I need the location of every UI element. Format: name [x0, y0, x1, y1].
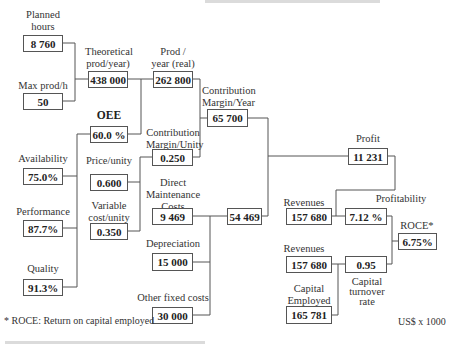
profitability-box: 7.12 % — [345, 208, 387, 225]
label-line: Planned — [22, 9, 64, 21]
variable-cost-label: Variable cost/unity — [84, 200, 134, 224]
connector — [128, 79, 141, 134]
cm-unity-label: Contribution Margin/Unity — [146, 127, 200, 151]
planned-hours-box: 8 760 — [23, 35, 63, 52]
capital-employed-box: 165 781 — [286, 306, 332, 324]
cm-year-box: 65 700 — [207, 109, 248, 127]
roce-label: ROCE* — [396, 220, 438, 232]
capital-employed-label: Capital Employed — [284, 283, 334, 307]
label-line: Direct — [144, 177, 202, 189]
revenues-1-box: 157 680 — [286, 208, 332, 225]
quality-label: Quality — [20, 263, 66, 275]
cm-unity-box: 0.250 — [152, 149, 193, 166]
quality-box: 91.3% — [23, 279, 63, 296]
other-fixed-costs-label: Other fixed costs — [136, 292, 210, 304]
prod-year-real-box: 262 800 — [153, 71, 193, 88]
max-prod-box: 50 — [23, 93, 63, 110]
performance-label: Performance — [12, 206, 74, 218]
label-line: Prod / — [150, 46, 196, 58]
label-line: prod/year) — [85, 58, 131, 70]
label-line: year (real) — [150, 58, 196, 70]
prod-year-real-label: Prod / year (real) — [150, 46, 196, 70]
availability-box: 75.0% — [23, 168, 63, 185]
label-line: Theoretical — [85, 46, 131, 58]
units-note: US$ x 1000 — [398, 316, 446, 327]
profitability-label: Profitability — [372, 193, 430, 205]
revenues-2-label: Revenues — [282, 243, 326, 255]
label-line: rate — [344, 297, 390, 307]
profit-label: Profit — [348, 133, 388, 145]
oee-box: 60.0 % — [90, 126, 128, 143]
theoretical-prod-label: Theoretical prod/year) — [85, 46, 131, 70]
connector — [336, 156, 395, 216]
label-line: hours — [22, 21, 64, 33]
planned-hours-label: Planned hours — [22, 9, 64, 33]
revenues-2-box: 157 680 — [286, 256, 332, 273]
capital-turnover-label: Capital turnover rate — [344, 277, 390, 307]
price-unity-box: 0.600 — [90, 174, 128, 191]
profit-box: 11 231 — [348, 148, 388, 165]
availability-label: Availability — [15, 153, 71, 165]
oee-label: OEE — [89, 109, 129, 121]
other-fixed-costs-box: 30 000 — [152, 307, 193, 324]
label-line: Contribution — [146, 127, 200, 139]
depreciation-label: Depreciation — [142, 238, 204, 250]
direct-maintenance-box: 9 469 — [152, 208, 193, 225]
label-line: Maintenance — [144, 189, 202, 201]
variable-cost-box: 0.350 — [90, 223, 128, 240]
cm-year-label: Contribution Margin/Year — [202, 85, 254, 109]
label-line: Contribution — [202, 85, 254, 97]
depreciation-box: 15 000 — [152, 253, 193, 271]
theoretical-prod-box: 438 000 — [88, 71, 128, 88]
footnote: * ROCE: Return on capital employed — [4, 315, 154, 326]
performance-box: 87.7% — [23, 220, 63, 237]
price-unity-label: Price/unity — [84, 155, 134, 167]
max-prod-label: Max prod/h — [18, 80, 68, 92]
label-line: Variable — [84, 200, 134, 212]
label-line: Margin/Year — [202, 97, 254, 109]
capital-turnover-box: 0.95 — [345, 256, 387, 273]
total-fixed-costs-box: 54 469 — [227, 208, 262, 225]
connector — [387, 216, 392, 264]
label-line: Capital — [284, 283, 334, 295]
connector — [62, 43, 75, 101]
connector — [248, 118, 268, 216]
roce-box: 6.75% — [398, 233, 437, 250]
